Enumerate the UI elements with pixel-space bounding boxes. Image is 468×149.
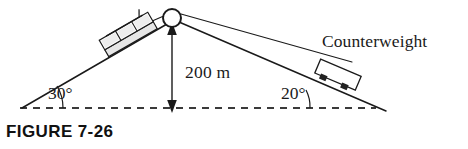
height-dimension-arrow	[167, 22, 177, 113]
angle-label-left: 30°	[48, 83, 73, 104]
counterweight-label: Counterweight	[322, 31, 427, 52]
arrow-head-down	[167, 100, 177, 113]
counterweight-box	[313, 59, 361, 93]
figure-caption: FIGURE 7-26	[6, 122, 113, 142]
left-slope-line	[22, 24, 167, 108]
angle-arc-right	[306, 90, 310, 108]
height-label: 200 m	[185, 62, 230, 83]
angle-label-right: 20°	[281, 83, 306, 104]
cable-car	[96, 6, 157, 57]
pulley-wheel-icon	[163, 9, 181, 27]
figure-container: Counterweight 200 m 30° 20° FIGURE 7-26	[0, 0, 468, 149]
